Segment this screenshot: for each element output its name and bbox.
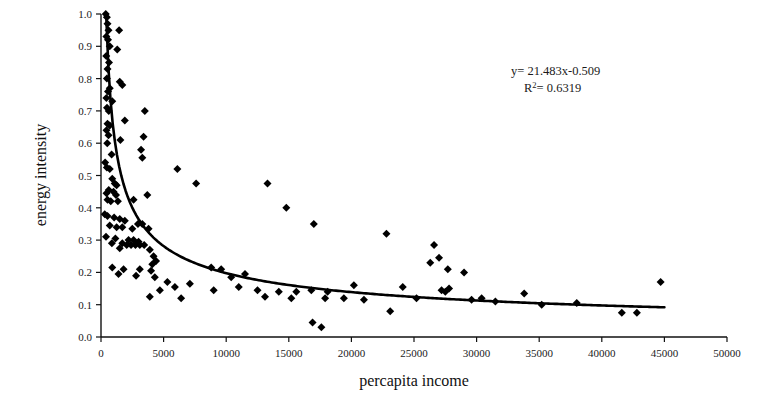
data-point xyxy=(143,191,151,199)
data-point xyxy=(386,307,394,315)
chart-plot-area xyxy=(96,10,727,342)
x-axis-tick-label: 5000 xyxy=(153,347,176,359)
data-point xyxy=(146,246,154,254)
x-axis-tick-label: 0 xyxy=(98,347,104,359)
y-axis-tick-group xyxy=(96,14,101,337)
y-axis-title: energy intensity xyxy=(32,124,50,226)
data-point xyxy=(102,233,110,241)
data-point xyxy=(210,286,218,294)
data-point xyxy=(110,213,118,221)
scatter-chart: 0.00.10.20.30.40.50.60.70.80.91.0 050001… xyxy=(0,0,763,402)
x-axis-tick-label: 35000 xyxy=(525,347,553,359)
data-point xyxy=(310,220,318,228)
data-point xyxy=(275,288,283,296)
data-point xyxy=(115,270,123,278)
data-point xyxy=(120,265,128,273)
data-point xyxy=(633,309,641,317)
data-point xyxy=(140,133,148,141)
data-point xyxy=(426,259,434,267)
data-point xyxy=(435,254,443,262)
data-point xyxy=(317,323,325,331)
y-axis-tick-label: 0.4 xyxy=(78,202,92,214)
data-point xyxy=(657,278,665,286)
data-point xyxy=(138,154,146,162)
y-axis-tick-label: 0.1 xyxy=(78,299,92,311)
x-axis-tick-label: 15000 xyxy=(275,347,303,359)
data-point xyxy=(444,265,452,273)
data-point xyxy=(113,46,121,54)
data-point xyxy=(128,225,136,233)
equation-text: y= 21.483x-0.509 xyxy=(511,64,600,78)
x-axis-tick-label: 45000 xyxy=(651,347,679,359)
data-point xyxy=(163,278,171,286)
x-axis-tick-group xyxy=(101,337,727,342)
data-point xyxy=(186,280,194,288)
data-point xyxy=(173,165,181,173)
y-axis-tick-label: 0.6 xyxy=(78,137,92,149)
data-point xyxy=(177,294,185,302)
data-point xyxy=(116,136,124,144)
data-point xyxy=(399,283,407,291)
data-point xyxy=(156,286,164,294)
x-axis-tick-label: 25000 xyxy=(400,347,428,359)
x-axis-tick-label: 10000 xyxy=(212,347,240,359)
data-point xyxy=(106,222,114,230)
data-point xyxy=(146,293,154,301)
data-point xyxy=(430,241,438,249)
y-axis-tick-label: 0.7 xyxy=(78,105,92,117)
data-point xyxy=(254,286,262,294)
data-point xyxy=(292,288,300,296)
data-point xyxy=(460,268,468,276)
data-point xyxy=(282,204,290,212)
data-point xyxy=(382,230,390,238)
data-point xyxy=(137,146,145,154)
data-point xyxy=(108,264,116,272)
x-axis-tick-label: 20000 xyxy=(338,347,366,359)
y-axis-tick-label: 0.9 xyxy=(78,40,92,52)
y-axis-tick-label: 1.0 xyxy=(78,8,92,20)
data-point xyxy=(114,197,122,205)
data-point xyxy=(103,139,111,147)
data-point xyxy=(115,26,123,34)
x-axis-tick-labels: 0500010000150002000025000300003500040000… xyxy=(98,347,741,359)
data-point-group xyxy=(101,10,665,331)
data-point xyxy=(520,289,528,297)
data-point xyxy=(340,294,348,302)
y-axis-tick-label: 0.5 xyxy=(78,170,92,182)
data-point xyxy=(264,180,272,188)
data-point xyxy=(147,267,155,275)
data-point xyxy=(287,294,295,302)
data-point xyxy=(132,272,140,280)
data-point xyxy=(151,273,159,281)
data-point xyxy=(309,318,317,326)
y-axis-tick-label: 0.2 xyxy=(78,266,92,278)
chart-container: 0.00.10.20.30.40.50.60.70.80.91.0 050001… xyxy=(0,0,763,402)
data-point xyxy=(360,296,368,304)
y-axis-tick-label: 0.8 xyxy=(78,73,92,85)
y-axis-tick-label: 0.0 xyxy=(78,331,92,343)
data-point xyxy=(192,180,200,188)
data-point xyxy=(350,281,358,289)
r-squared-label: R2= 0.6319 xyxy=(524,80,581,95)
y-axis-tick-labels: 0.00.10.20.30.40.50.60.70.80.91.0 xyxy=(78,8,92,343)
data-point xyxy=(261,293,269,301)
trendline xyxy=(106,16,664,307)
r-squared-value: = 0.6319 xyxy=(537,81,582,95)
x-axis-tick-label: 40000 xyxy=(588,347,616,359)
data-point xyxy=(121,117,129,125)
data-point xyxy=(141,107,149,115)
data-point xyxy=(235,283,243,291)
data-point xyxy=(171,283,179,291)
data-point xyxy=(618,309,626,317)
x-axis-title: percapita income xyxy=(359,372,469,390)
x-axis-tick-label: 30000 xyxy=(463,347,491,359)
y-axis-tick-label: 0.3 xyxy=(78,234,92,246)
data-point xyxy=(136,265,144,273)
trendline-equation-label: y= 21.483x-0.509 xyxy=(511,64,600,78)
data-point xyxy=(108,151,116,159)
x-axis-tick-label: 50000 xyxy=(713,347,741,359)
